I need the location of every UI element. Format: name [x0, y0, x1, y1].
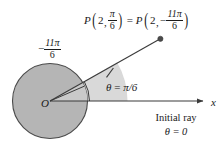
p2-angle-numerator: 11π [166, 9, 182, 20]
p2-minus-sign: − [160, 15, 166, 26]
point-p-first: P ( 2 , π 6 ) [84, 9, 124, 31]
p2-angle-denominator: 6 [171, 21, 178, 32]
p1-comma: , [104, 17, 107, 28]
negative-angle-denominator: 6 [49, 50, 56, 61]
negative-angle-minus: − [38, 43, 44, 54]
p1-arguments: 2 , π 6 [98, 9, 118, 31]
initial-ray-angle-value: θ = 0 [144, 127, 208, 138]
initial-ray-text: Initial ray [155, 112, 196, 123]
p2-arguments: 2 , − 11π 6 [149, 9, 183, 31]
point-p-second: P ( 2 , − 11π 6 ) [136, 9, 190, 31]
theta-symbol: θ [106, 81, 111, 93]
origin-label: O [41, 98, 49, 109]
point-p-label: P ( 2 , π 6 ) = P ( 2 , − 11π [84, 9, 190, 31]
p1-radius: 2 [98, 15, 104, 26]
open-paren-1: ( [92, 12, 96, 28]
p2-comma: , [156, 17, 159, 28]
polar-coordinate-figure: P ( 2 , π 6 ) = P ( 2 , − 11π [0, 0, 224, 146]
open-paren-2: ( [144, 12, 148, 28]
negative-angle-numerator: 11π [44, 38, 60, 49]
negative-angle-fraction: 11π 6 [44, 38, 60, 60]
theta-value: π/6 [123, 81, 137, 93]
negative-angle-label: − 11π 6 [38, 38, 61, 60]
p1-angle-denominator: 6 [109, 21, 116, 32]
x-axis-label: x [211, 97, 216, 108]
point-label-equals: = [127, 15, 133, 26]
theta-angle-label: θ = π/6 [106, 82, 137, 93]
point-p-dot [158, 36, 163, 41]
p-symbol-2: P [136, 15, 143, 26]
p-symbol-1: P [84, 15, 91, 26]
p1-angle-numerator: π [109, 9, 116, 20]
close-paren-1: ) [119, 12, 123, 28]
p1-angle-fraction: π 6 [108, 9, 117, 31]
theta-equals: = [114, 81, 120, 93]
p2-radius: 2 [150, 15, 156, 26]
initial-ray-caption: Initial ray θ = 0 [144, 113, 208, 137]
close-paren-2: ) [184, 12, 188, 28]
p2-angle-fraction: 11π 6 [166, 9, 182, 31]
